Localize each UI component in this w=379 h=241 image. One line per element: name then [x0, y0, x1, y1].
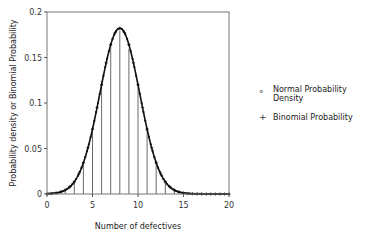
- plot-area: [45, 27, 230, 196]
- x-tick-label: 0: [44, 201, 49, 210]
- y-tick-label: 0.05: [24, 145, 42, 154]
- x-tick-label: 10: [133, 201, 143, 210]
- x-tick-label: 15: [178, 201, 188, 210]
- y-tick-label: 0.15: [24, 54, 42, 63]
- legend-item-normal: ° Normal Probability Density: [259, 88, 379, 100]
- legend-label-binomial: Binomial Probability: [273, 113, 353, 122]
- dot-marker-icon: °: [259, 89, 273, 99]
- plus-marker-icon: +: [259, 112, 273, 122]
- y-tick-label: 0: [37, 190, 42, 199]
- x-axis-label: Number of defectives: [95, 222, 181, 231]
- y-tick-label: 0.1: [29, 99, 42, 108]
- y-axis-label: Probability density or Binomial Probabil…: [9, 19, 18, 186]
- x-tick-label: 5: [90, 201, 95, 210]
- x-tick-label: 20: [224, 201, 234, 210]
- legend-item-binomial: + Binomial Probability: [259, 111, 379, 123]
- legend: ° Normal Probability Density + Binomial …: [259, 88, 379, 134]
- legend-label-normal: Normal Probability Density: [273, 85, 379, 103]
- y-tick-label: 0.2: [29, 8, 42, 17]
